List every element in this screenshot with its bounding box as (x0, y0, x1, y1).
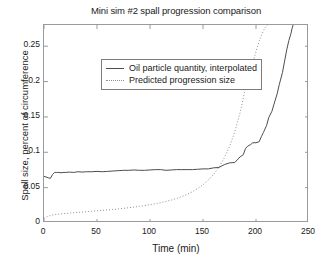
x-axis-label: Time (min) (43, 243, 309, 254)
x-tick-label: 250 (293, 226, 323, 236)
y-tick-label: 0.1 (6, 145, 40, 155)
x-tick-label: 100 (134, 226, 164, 236)
solid-line-swatch-icon (105, 63, 125, 73)
chart-legend: Oil particle quantity, interpolated Pred… (101, 59, 262, 90)
y-axis-tick-labels: 00.050.10.150.20.25 (2, 24, 40, 222)
y-tick-label: 0.15 (6, 110, 40, 120)
legend-item-oil-particle-quantity: Oil particle quantity, interpolated (105, 62, 257, 74)
figure-canvas: Mini sim #2 spall progression comparison… (0, 0, 323, 265)
legend-label-series-0: Oil particle quantity, interpolated (129, 63, 257, 73)
y-tick-label: 0.25 (6, 39, 40, 49)
x-tick-label: 0 (28, 226, 58, 236)
data-series-line-0 (44, 25, 293, 178)
x-tick-label: 150 (187, 226, 217, 236)
y-tick-label: 0.05 (6, 181, 40, 191)
legend-label-series-1: Predicted progression size (129, 75, 235, 85)
plot-area: Oil particle quantity, interpolated Pred… (43, 24, 308, 222)
dotted-line-swatch-icon (105, 75, 125, 85)
y-tick-label: 0 (6, 216, 40, 226)
x-axis-tick-labels: 050100150200250 (43, 226, 308, 240)
x-tick-label: 50 (81, 226, 111, 236)
y-tick-label: 0.2 (6, 75, 40, 85)
x-tick-label: 200 (240, 226, 270, 236)
data-series-line-1 (44, 25, 268, 218)
plot-svg (44, 25, 308, 222)
chart-title: Mini sim #2 spall progression comparison (43, 5, 309, 16)
legend-item-predicted-progression-size: Predicted progression size (105, 74, 257, 86)
